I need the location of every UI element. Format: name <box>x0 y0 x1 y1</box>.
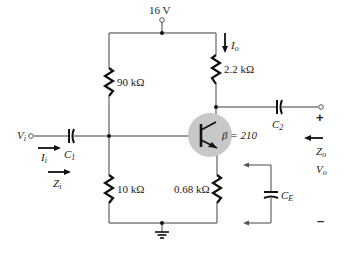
zo-arrow-icon <box>304 135 323 141</box>
ii-subscript: i <box>45 156 47 165</box>
vo-terminal <box>319 105 324 110</box>
re-label: 0.68 kΩ <box>174 184 210 195</box>
c1-subscript: 1 <box>71 153 75 162</box>
vo-letter: V <box>316 163 323 175</box>
c2-subscript: 2 <box>279 123 283 132</box>
output-minus-sign: – <box>317 214 324 227</box>
ce-subscript: E <box>288 194 293 203</box>
ii-label: Ii <box>41 152 47 165</box>
c2-label: C2 <box>272 119 283 132</box>
io-subscript: o <box>235 44 239 53</box>
ce-label: CE <box>281 190 293 203</box>
vo-subscript: o <box>323 168 327 177</box>
supply-terminal <box>160 18 165 23</box>
beta-label: β = 210 <box>222 130 257 141</box>
c1-label: C1 <box>64 149 75 162</box>
ground-icon <box>155 232 169 238</box>
c1-capacitor-icon <box>69 129 74 143</box>
io-arrow-icon <box>222 33 228 53</box>
r1-label: 90 kΩ <box>117 77 144 88</box>
ce-top-arrow-icon <box>243 163 249 168</box>
vi-label: Vi <box>17 130 26 143</box>
r2-label: 10 kΩ <box>117 184 144 195</box>
vi-terminal <box>29 134 34 139</box>
r1-resistor-icon <box>105 68 113 96</box>
circuit-schematic <box>0 0 349 254</box>
r2-resistor-icon <box>105 175 113 203</box>
rc-resistor-icon <box>212 55 220 84</box>
junction-dot-collector <box>214 105 218 109</box>
vi-subscript: i <box>24 134 26 143</box>
ce-capacitor-icon <box>264 192 278 198</box>
c2-capacitor-icon <box>277 100 282 114</box>
zo-label: Zo <box>316 146 326 159</box>
rc-label: 2.2 kΩ <box>224 64 254 75</box>
junction-dot-base <box>107 134 111 138</box>
io-label: Io <box>231 40 239 53</box>
re-resistor-icon <box>213 175 221 203</box>
junction-dot-ground <box>160 221 164 225</box>
zi-subscript: i <box>59 182 61 191</box>
junction-dot-supply <box>160 31 164 35</box>
output-plus-sign: + <box>316 111 324 124</box>
zo-subscript: o <box>322 150 326 159</box>
ce-bottom-arrow-icon <box>243 221 249 226</box>
vi-letter: V <box>17 129 24 141</box>
supply-voltage-label: 16 V <box>149 5 171 16</box>
vo-label: Vo <box>316 164 327 177</box>
zi-label: Zi <box>53 178 61 191</box>
zi-arrow-icon <box>48 169 71 175</box>
